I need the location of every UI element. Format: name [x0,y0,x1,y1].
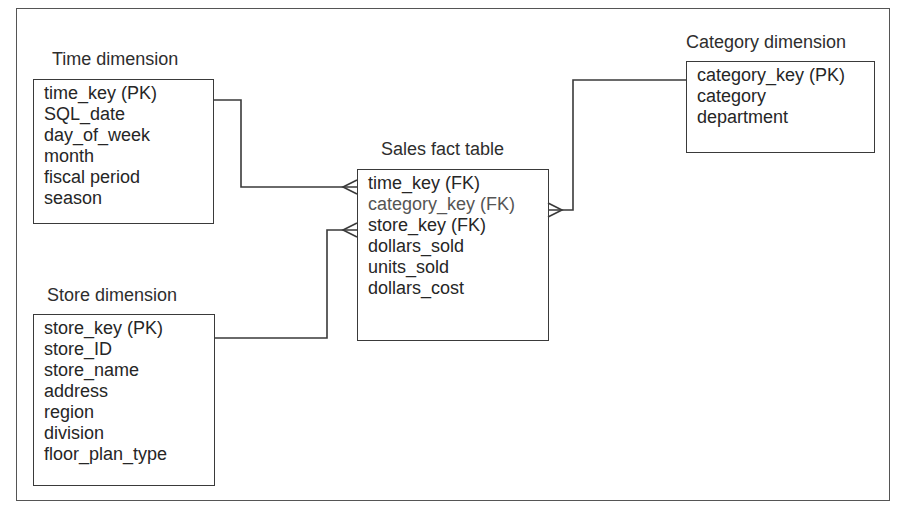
category-sales-connector [548,80,686,210]
table-field: fiscal period [44,167,213,188]
time-dimension-title: Time dimension [52,49,178,70]
table-field: department [697,107,874,128]
table-field: dollars_cost [368,278,548,299]
table-field: time_key (PK) [44,83,213,104]
category-dimension-table[interactable]: category_key (PK) category department [686,61,875,153]
store-dimension-title: Store dimension [47,285,177,306]
table-field: SQL_date [44,104,213,125]
category-dimension-title: Category dimension [686,32,846,53]
sales-fact-table[interactable]: time_key (FK) category_key (FK) store_ke… [357,169,549,341]
time-dimension-table[interactable]: time_key (PK) SQL_date day_of_week month… [33,79,214,224]
time-sales-connector [213,100,357,187]
table-field: season [44,188,213,209]
table-field: region [44,402,214,423]
table-field: address [44,381,214,402]
table-field: month [44,146,213,167]
table-field: store_ID [44,339,214,360]
store-dimension-table[interactable]: store_key (PK) store_ID store_name addre… [33,314,215,486]
table-field: time_key (FK) [368,173,548,194]
table-field: units_sold [368,257,548,278]
table-field: store_key (PK) [44,318,214,339]
table-field: category_key (PK) [697,65,874,86]
table-field: category [697,86,874,107]
table-field: day_of_week [44,125,213,146]
table-field: store_name [44,360,214,381]
sales-fact-title: Sales fact table [381,139,504,160]
table-field: division [44,423,214,444]
table-field: dollars_sold [368,236,548,257]
table-field: store_key (FK) [368,215,548,236]
store-sales-connector [214,230,357,338]
table-field: floor_plan_type [44,444,214,465]
table-field: category_key (FK) [368,194,548,215]
